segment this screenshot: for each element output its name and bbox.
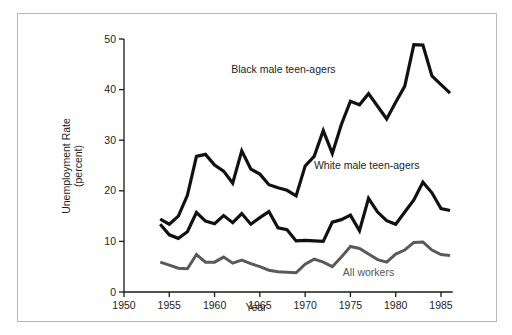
y-axis-title-line1: Unemployment Rate xyxy=(60,118,72,214)
x-tick-label: 1980 xyxy=(384,299,408,311)
series-line-1 xyxy=(160,182,450,241)
y-tick-label: 0 xyxy=(110,286,116,298)
y-tick-label: 40 xyxy=(104,83,116,95)
figure-page: 0102030405019501955196019651970197519801… xyxy=(0,0,512,335)
y-tick-label: 10 xyxy=(104,235,116,247)
y-tick-label: 20 xyxy=(104,184,116,196)
axis-titles-group: Year Unemployment Rate (percent) xyxy=(60,118,267,313)
series-label-1: White male teen-agers xyxy=(314,159,420,171)
y-tick-label: 50 xyxy=(104,33,116,45)
series-label-0: Black male teen-agers xyxy=(231,63,335,75)
x-tick-label: 1950 xyxy=(112,299,136,311)
series-label-2: All workers xyxy=(343,266,394,278)
x-tick-label: 1960 xyxy=(203,299,227,311)
x-tick-label: 1975 xyxy=(339,299,363,311)
x-tick-label: 1985 xyxy=(429,299,453,311)
x-axis-title: Year xyxy=(245,301,267,313)
series-annotations-group: Black male teen-agersWhite male teen-age… xyxy=(231,63,419,278)
chart-plot-area: 0102030405019501955196019651970197519801… xyxy=(0,0,512,335)
y-axis-title-line2: (percent) xyxy=(72,145,84,187)
unemployment-line-chart: 0102030405019501955196019651970197519801… xyxy=(0,0,512,335)
y-tick-label: 30 xyxy=(104,134,116,146)
series-line-2 xyxy=(160,242,450,273)
x-tick-label: 1955 xyxy=(158,299,182,311)
x-tick-label: 1970 xyxy=(293,299,317,311)
